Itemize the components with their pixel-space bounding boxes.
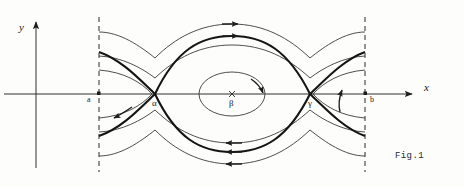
critical-point-label-beta: β — [229, 99, 234, 108]
axes-group — [4, 22, 412, 168]
trajectory-lower-outer — [99, 130, 365, 164]
figure-caption: Fig.1 — [395, 152, 424, 161]
flow-arrow-closed-orbit — [251, 79, 263, 93]
separatrix-gamma-upper-right — [310, 52, 365, 94]
separatrix-gamma-lower-right — [310, 94, 365, 136]
flow-arrow-left-pocket — [114, 107, 132, 118]
flow-arrow-right-pocket — [339, 90, 342, 112]
trajectory-lower-inner — [99, 110, 365, 143]
separatrix-alpha-lower-left — [99, 94, 155, 136]
separatrix-alpha-upper-left — [99, 52, 155, 94]
critical-point-label-gamma: γ — [308, 99, 312, 108]
boundary-label-b: b — [370, 96, 374, 104]
critical-point-label-alpha: α — [152, 99, 157, 108]
boundary-tick-a — [97, 92, 101, 96]
boundary-label-a: a — [87, 96, 91, 104]
x-axis-label: x — [424, 82, 429, 93]
boundary-tick-b — [364, 92, 368, 96]
trajectory-upper-inner — [99, 45, 365, 78]
trajectory-upper-outer — [99, 24, 365, 58]
y-axis-label: y — [19, 22, 24, 33]
